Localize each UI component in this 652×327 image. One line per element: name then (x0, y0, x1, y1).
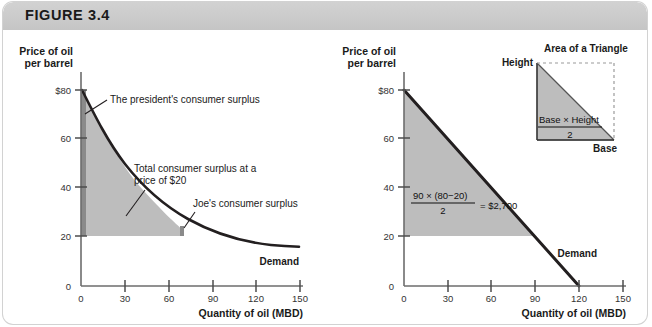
left-demand-label: Demand (260, 256, 299, 267)
left-y-label-60: 60 (60, 133, 71, 144)
inset-base-label: Base (593, 143, 617, 154)
right-y-label-40: 40 (383, 182, 394, 193)
right-chart-panel: $80 60 40 20 0 0 30 60 90 120 150 Price … (329, 30, 647, 324)
left-x-label-60: 60 (164, 293, 175, 304)
right-x-label-150: 150 (615, 293, 631, 304)
annotation-total-surplus-line2: price of $20 (134, 175, 187, 186)
figure-label: FIGURE 3.4 (25, 7, 110, 23)
inset-formula-denominator: 2 (567, 129, 572, 140)
right-y-label-80: $80 (378, 85, 394, 96)
figure-3-4: FIGURE 3.4 (0, 0, 652, 327)
annotation-total-surplus-line1: Total consumer surplus at a (134, 163, 257, 174)
joes-surplus-bar (180, 226, 184, 236)
left-y-axis-title-line1: Price of oil (19, 45, 73, 57)
area-formula-numerator: 90 × (80−20) (413, 190, 467, 201)
right-y-label-60: 60 (383, 133, 394, 144)
right-y-axis-title-line1: Price of oil (342, 45, 396, 57)
left-y-label-0: 0 (66, 281, 71, 292)
figure-card: FIGURE 3.4 (3, 2, 647, 324)
right-y-axis-title-line2: per barrel (348, 57, 397, 69)
annotation-joes-surplus: Joe's consumer surplus (193, 198, 298, 209)
area-formula-denominator: 2 (440, 205, 445, 216)
left-x-label-150: 150 (292, 293, 308, 304)
left-x-label-30: 30 (120, 293, 131, 304)
left-y-axis-title-line2: per barrel (25, 57, 74, 69)
right-demand-label: Demand (558, 248, 597, 259)
left-chart-panel: $80 60 40 20 0 0 30 60 90 120 150 Price … (3, 30, 329, 324)
inset-formula-numerator: Base × Height (539, 114, 599, 125)
left-x-label-0: 0 (78, 293, 83, 304)
right-x-label-0: 0 (401, 293, 406, 304)
right-x-label-30: 30 (443, 293, 454, 304)
area-formula-result: = $2,700 (480, 200, 517, 211)
left-y-label-80: $80 (55, 85, 71, 96)
left-x-label-120: 120 (248, 293, 264, 304)
right-x-label-90: 90 (530, 293, 541, 304)
right-y-label-0: 0 (389, 281, 394, 292)
left-y-label-20: 20 (60, 231, 71, 242)
annotation-presidents-surplus: The president's consumer surplus (110, 94, 260, 105)
left-x-axis-title: Quantity of oil (MBD) (199, 307, 303, 319)
area-of-triangle-inset: Area of a Triangle Height Base Base (502, 43, 628, 154)
leader-line-joes-surplus (184, 212, 195, 228)
left-chart-svg: $80 60 40 20 0 0 30 60 90 120 150 Price … (3, 30, 329, 324)
left-x-label-90: 90 (208, 293, 219, 304)
inset-title: Area of a Triangle (544, 43, 628, 54)
right-y-label-20: 20 (383, 231, 394, 242)
right-x-label-60: 60 (486, 293, 497, 304)
right-chart-svg: $80 60 40 20 0 0 30 60 90 120 150 Price … (329, 30, 647, 324)
inset-height-label: Height (502, 57, 534, 68)
right-x-label-120: 120 (571, 293, 587, 304)
left-y-label-40: 40 (60, 182, 71, 193)
right-x-axis-title: Quantity of oil (MBD) (522, 307, 626, 319)
